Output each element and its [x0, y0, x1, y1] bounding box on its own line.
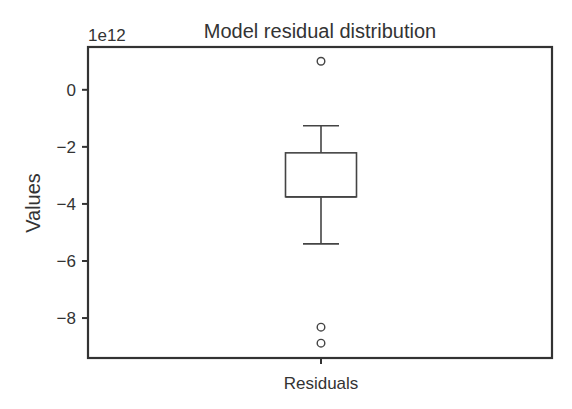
- y-axis-label: Values: [22, 173, 44, 233]
- outlier-point: [317, 323, 325, 331]
- y-tick-label: −6: [57, 252, 76, 271]
- chart-title: Model residual distribution: [204, 20, 436, 42]
- y-axis-offset-label: 1e12: [88, 26, 126, 45]
- box-plot-chart: Model residual distribution 1e12 Values …: [0, 0, 572, 409]
- box-group: [286, 57, 357, 346]
- outlier-point: [317, 57, 325, 65]
- box-residuals: [286, 57, 357, 346]
- x-axis-ticks: Residuals: [284, 358, 359, 393]
- outlier-point: [317, 339, 325, 347]
- y-axis-ticks: 0−2−4−6−8: [57, 81, 88, 328]
- y-tick-label: −2: [57, 138, 76, 157]
- x-tick-label: Residuals: [284, 374, 359, 393]
- iqr-box: [286, 153, 357, 197]
- y-tick-label: −8: [57, 309, 76, 328]
- y-tick-label: −4: [57, 195, 76, 214]
- y-tick-label: 0: [67, 81, 76, 100]
- plot-frame: [88, 47, 552, 358]
